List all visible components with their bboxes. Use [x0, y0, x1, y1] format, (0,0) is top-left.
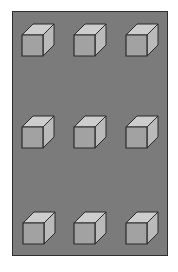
cube-icon	[73, 211, 107, 245]
cube-icon	[125, 115, 159, 149]
cube-icon	[125, 23, 159, 57]
cube-icon	[73, 115, 107, 149]
cube-icon	[21, 23, 55, 57]
cube-icon	[22, 211, 56, 245]
cube-icon	[125, 211, 159, 245]
cube-icon	[73, 23, 107, 57]
cube-icon	[21, 115, 55, 149]
